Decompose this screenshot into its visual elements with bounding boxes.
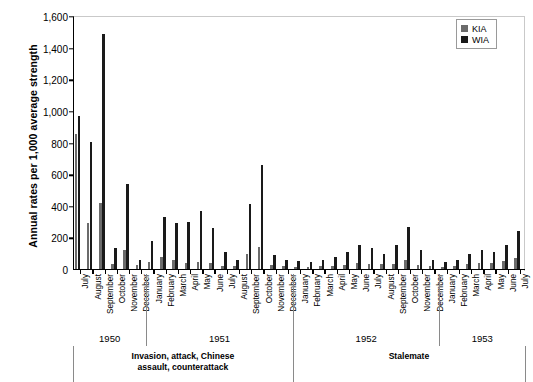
bar-group (184, 17, 196, 269)
bar-group (477, 17, 489, 269)
bar-series-container (74, 17, 525, 269)
bar-group (306, 17, 318, 269)
x-axis-tick-label: October (412, 274, 420, 303)
bar-wia (285, 260, 288, 269)
x-axis-tick-label: August (388, 274, 396, 300)
bar-wia (346, 252, 349, 269)
bar-group (379, 17, 391, 269)
x-axis-tick-label: November (131, 274, 139, 312)
x-axis-tick-label: December (437, 274, 445, 312)
year-group-label: 1952 (356, 333, 377, 344)
x-axis-tick-label: September (253, 274, 261, 314)
bar-wia (297, 261, 300, 269)
bar-wia (407, 227, 410, 269)
y-axis-tick-mark (69, 238, 74, 239)
bar-wia (200, 211, 203, 269)
x-axis-tick-label: June (217, 274, 225, 292)
y-axis-tick-mark (69, 206, 74, 207)
bar-wia (249, 204, 252, 269)
bar-wia (468, 254, 471, 269)
x-axis-tick-label: March (473, 274, 481, 297)
x-axis-tick-label: April (192, 274, 200, 290)
bar-wia (432, 260, 435, 269)
x-axis-tick-label: December (290, 274, 298, 312)
year-group-label: 1951 (209, 333, 230, 344)
phase-label: Stalemate (389, 351, 430, 362)
x-axis-tick-label: July (229, 274, 237, 289)
x-axis-tick-label: January (156, 274, 164, 303)
x-axis-tick-label: October (119, 274, 127, 303)
bar-group (502, 17, 514, 269)
bar-wia (310, 262, 313, 269)
x-axis-tick-label: August (95, 274, 103, 300)
x-axis-tick-label: April (485, 274, 493, 290)
bar-wia (236, 260, 239, 269)
x-axis-tick-label: June (510, 274, 518, 292)
x-axis-tick-label: May (498, 274, 506, 289)
legend-item-kia: KIA (461, 23, 489, 34)
legend-label-kia: KIA (472, 24, 487, 34)
bar-group (172, 17, 184, 269)
bar-wia (334, 257, 337, 269)
year-group-separator (439, 274, 440, 346)
phase-separator (525, 346, 526, 382)
bar-wia (420, 250, 423, 269)
bar-group (221, 17, 233, 269)
bar-group (318, 17, 330, 269)
x-axis-tick-label: March (327, 274, 335, 297)
bar-group (404, 17, 416, 269)
bar-wia (493, 252, 496, 269)
bar-group (196, 17, 208, 269)
bar-group (428, 17, 440, 269)
bar-wia (383, 254, 386, 269)
bar-wia (175, 223, 178, 269)
bar-wia (456, 260, 459, 269)
bar-wia (505, 245, 508, 270)
x-axis-tick-label: May (204, 274, 212, 289)
x-axis-tick-label: November (424, 274, 432, 312)
x-axis-tick-label: March (180, 274, 188, 297)
bar-group (440, 17, 452, 269)
bar-group (392, 17, 404, 269)
x-axis-tick-label: September (400, 274, 408, 314)
bar-wia (224, 252, 227, 269)
y-axis-title: Annual rates per 1,000 average strength (27, 26, 39, 266)
x-axis-tick-label: May (351, 274, 359, 289)
phase-separator (293, 346, 294, 382)
phase-label: Invasion, attack, Chinese assault, count… (132, 351, 235, 372)
legend-label-wia: WIA (472, 35, 489, 45)
bar-group (367, 17, 379, 269)
bar-wia (322, 260, 325, 269)
bar-wia (517, 231, 520, 269)
bar-group (416, 17, 428, 269)
x-axis-tick-label: January (302, 274, 310, 303)
bar-group (86, 17, 98, 269)
legend-swatch-kia (461, 25, 468, 32)
x-axis-tick-label: February (461, 274, 469, 307)
bar-wia (481, 250, 484, 269)
bar-group (245, 17, 257, 269)
x-axis-tick-label: July (522, 274, 530, 289)
legend-item-wia: WIA (461, 34, 489, 45)
x-axis-tick-label: November (278, 274, 286, 312)
bar-group (160, 17, 172, 269)
bar-group (111, 17, 123, 269)
bar-wia (212, 228, 215, 269)
year-group-label: 1950 (99, 333, 120, 344)
bar-wia (114, 248, 117, 269)
x-axis-tick-label: July (82, 274, 90, 289)
bar-group (453, 17, 465, 269)
y-axis-tick-mark (69, 111, 74, 112)
bar-wia (395, 245, 398, 270)
y-axis-tick-mark (69, 174, 74, 175)
x-axis-tick-label: January (449, 274, 457, 303)
x-axis-tick-label: December (143, 274, 151, 312)
bar-group (208, 17, 220, 269)
plot-area: 02004006008001,0001,2001,4001,600 (73, 17, 525, 270)
x-axis-labels: JulyAugustSeptemberOctoberNovemberDecemb… (73, 274, 525, 334)
bar-wia (261, 165, 264, 269)
bar-group (98, 17, 110, 269)
bar-wia (371, 248, 374, 269)
legend-swatch-wia (461, 36, 468, 43)
bar-group (331, 17, 343, 269)
